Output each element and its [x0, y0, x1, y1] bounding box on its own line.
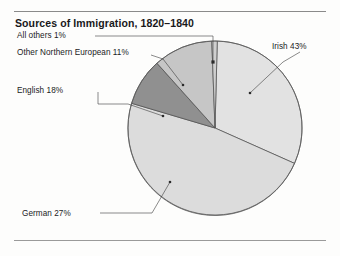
pie-chart-figure: Sources of Immigration, 1820–1840	[0, 0, 340, 256]
pie-label-irish: Irish 43%	[272, 42, 307, 51]
pie-label-english: English 18%	[17, 86, 63, 95]
pie-label-all-others: All others 1%	[17, 31, 66, 40]
pie-label-other-northern-european: Other Northern European 11%	[17, 48, 129, 57]
bottom-rule	[14, 240, 326, 241]
pie-label-german: German 27%	[22, 209, 71, 218]
